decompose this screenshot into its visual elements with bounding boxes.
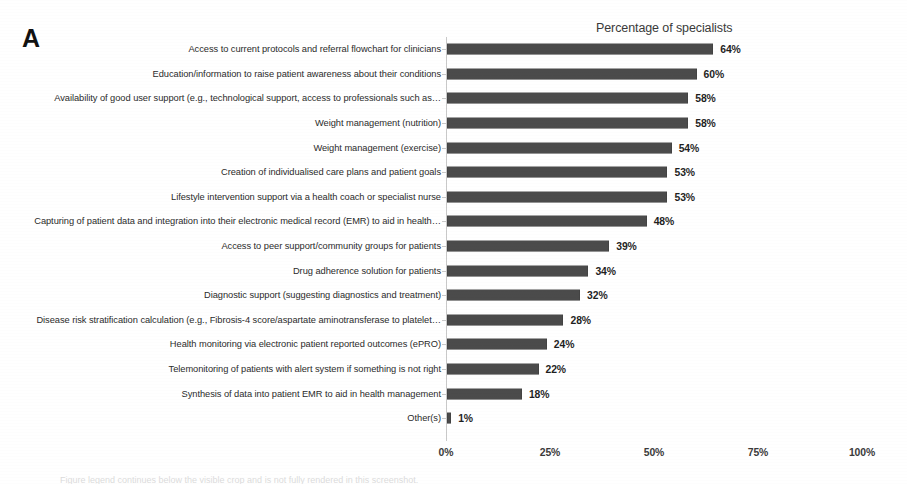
bar-row: Access to peer support/community groups … (0, 234, 907, 259)
category-label: Capturing of patient data and integratio… (34, 216, 441, 227)
category-tick (442, 221, 446, 222)
category-tick (442, 369, 446, 370)
category-label: Drug adherence solution for patients (293, 265, 441, 276)
category-tick (442, 271, 446, 272)
bar-value-label: 1% (458, 413, 473, 424)
figure-panel: A Percentage of specialists Access to cu… (0, 0, 907, 484)
bar-value-label: 54% (679, 142, 700, 153)
bar-value-label: 34% (595, 265, 616, 276)
bar-value-label: 32% (587, 290, 608, 301)
bar-value-label: 53% (674, 167, 695, 178)
bar (447, 241, 609, 252)
bar-and-value: 1% (447, 413, 473, 424)
bar (447, 142, 672, 153)
bar (447, 191, 667, 202)
category-tick (442, 148, 446, 149)
bar-and-value: 53% (447, 191, 695, 202)
bar-and-value: 22% (447, 364, 566, 375)
bar-value-label: 60% (704, 68, 725, 79)
x-tick-label: 100% (849, 447, 875, 458)
bar (447, 339, 547, 350)
bar-value-label: 58% (695, 118, 716, 129)
bar (447, 314, 563, 325)
bar (447, 290, 580, 301)
figure-caption-sliver: Figure legend continues below the visibl… (60, 475, 850, 484)
x-tick-label: 50% (644, 447, 665, 458)
category-label: Telemonitoring of patients with alert sy… (169, 364, 441, 375)
bar (447, 216, 647, 227)
bar (447, 68, 697, 79)
category-label: Health monitoring via electronic patient… (170, 339, 441, 350)
x-tick-label: 25% (540, 447, 561, 458)
category-label: Access to current protocols and referral… (188, 44, 441, 55)
bar-and-value: 54% (447, 142, 699, 153)
bar-row: Drug adherence solution for patients34% (0, 258, 907, 283)
bar-row: Creation of individualised care plans an… (0, 160, 907, 185)
bar-and-value: 34% (447, 265, 616, 276)
bar-row: Availability of good user support (e.g.,… (0, 86, 907, 111)
category-tick (442, 74, 446, 75)
bar-value-label: 22% (546, 364, 567, 375)
category-label: Availability of good user support (e.g.,… (54, 93, 441, 104)
category-tick (442, 172, 446, 173)
bar-row: Capturing of patient data and integratio… (0, 209, 907, 234)
category-tick (442, 246, 446, 247)
bar-and-value: 60% (447, 68, 724, 79)
bar-and-value: 53% (447, 167, 695, 178)
category-label: Synthesis of data into patient EMR to ai… (182, 388, 441, 399)
bar (447, 93, 688, 104)
category-tick (442, 344, 446, 345)
bar-and-value: 64% (447, 44, 741, 55)
bar-and-value: 32% (447, 290, 608, 301)
category-tick (442, 98, 446, 99)
bar-row: Lifestyle intervention support via a hea… (0, 185, 907, 210)
bar-row: Weight management (exercise)54% (0, 135, 907, 160)
bar (447, 167, 667, 178)
bar-row: Education/information to raise patient a… (0, 62, 907, 87)
category-label: Diagnostic support (suggesting diagnosti… (204, 290, 441, 301)
bar-row: Access to current protocols and referral… (0, 37, 907, 62)
category-tick (442, 320, 446, 321)
category-tick (442, 197, 446, 198)
bar-and-value: 58% (447, 93, 716, 104)
category-tick (442, 394, 446, 395)
bar-and-value: 39% (447, 241, 637, 252)
bar-value-label: 53% (674, 191, 695, 202)
category-label: Lifestyle intervention support via a hea… (171, 191, 441, 202)
bar-and-value: 28% (447, 314, 591, 325)
bar-chart-plot-area: Access to current protocols and referral… (0, 0, 907, 484)
bar-value-label: 64% (720, 44, 741, 55)
bar-row: Synthesis of data into patient EMR to ai… (0, 381, 907, 406)
x-tick-label: 0% (439, 447, 454, 458)
category-tick (442, 49, 446, 50)
bar-and-value: 48% (447, 216, 674, 227)
bar-value-label: 39% (616, 241, 637, 252)
category-label: Weight management (nutrition) (315, 118, 441, 129)
bar (447, 118, 688, 129)
x-tick-label: 75% (748, 447, 769, 458)
bar-and-value: 18% (447, 388, 549, 399)
bar-value-label: 18% (529, 388, 550, 399)
category-tick (442, 418, 446, 419)
bar (447, 44, 713, 55)
bar (447, 413, 451, 424)
category-tick (442, 295, 446, 296)
bar-row: Diagnostic support (suggesting diagnosti… (0, 283, 907, 308)
category-label: Creation of individualised care plans an… (221, 167, 441, 178)
category-label: Other(s) (407, 413, 441, 424)
category-tick (442, 123, 446, 124)
bar-row: Other(s)1% (0, 406, 907, 431)
bar-row: Telemonitoring of patients with alert sy… (0, 357, 907, 382)
bar-value-label: 28% (570, 314, 591, 325)
category-label: Access to peer support/community groups … (221, 241, 441, 252)
bar-row: Health monitoring via electronic patient… (0, 332, 907, 357)
x-axis: 0%25%50%75%100% (0, 441, 907, 463)
bar-value-label: 48% (654, 216, 675, 227)
bar-and-value: 24% (447, 339, 574, 350)
bar (447, 388, 522, 399)
bar (447, 364, 539, 375)
bar-value-label: 24% (554, 339, 575, 350)
category-label: Disease risk stratification calculation … (36, 314, 441, 325)
bar-and-value: 58% (447, 118, 716, 129)
bar-row: Weight management (nutrition)58% (0, 111, 907, 136)
